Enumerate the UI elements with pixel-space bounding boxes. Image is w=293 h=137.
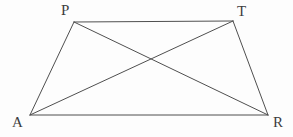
side-a-p	[30, 22, 74, 115]
geometry-figure: P T R A	[0, 0, 293, 137]
diagonal-a-t	[30, 21, 233, 115]
geometry-canvas	[0, 0, 293, 137]
vertex-label-a: A	[12, 115, 23, 130]
vertex-label-p: P	[61, 3, 69, 18]
side-p-t	[74, 21, 233, 22]
vertex-label-r: R	[273, 115, 283, 130]
vertex-label-t: T	[237, 4, 246, 19]
